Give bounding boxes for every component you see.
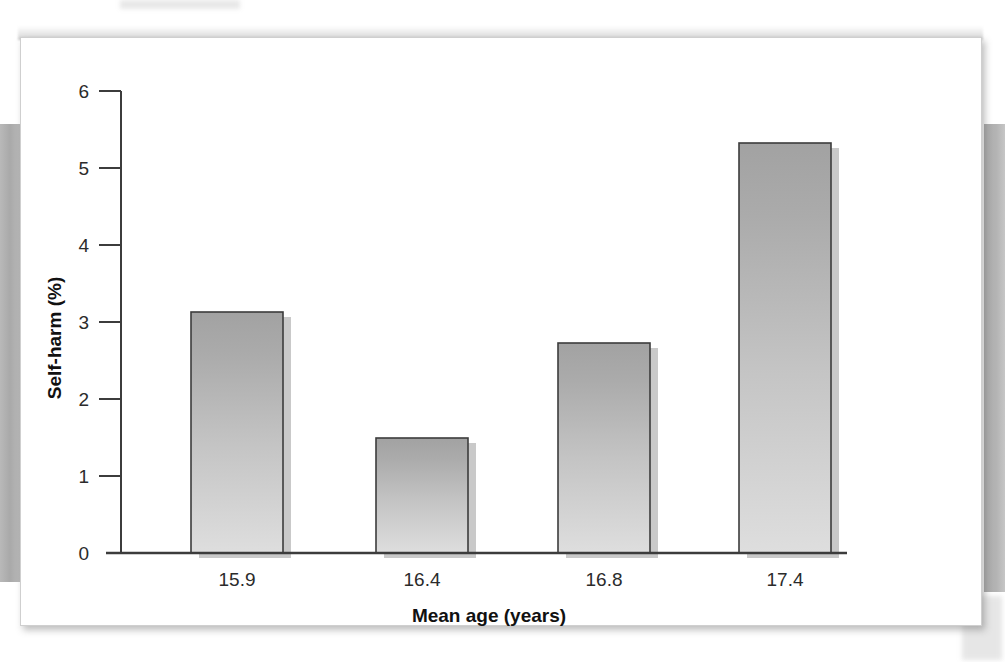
bar-15.9[interactable] xyxy=(191,312,283,553)
y-tick-label-5: 5 xyxy=(78,158,89,179)
x-axis-title: Mean age (years) xyxy=(412,605,566,626)
y-tick-label-1: 1 xyxy=(78,466,89,487)
y-tick-label-6: 6 xyxy=(78,81,89,102)
x-tick-label-17.4: 17.4 xyxy=(767,569,804,590)
y-axis-title: Self-harm (%) xyxy=(44,277,65,399)
chart-canvas: 6 5 4 3 2 1 0 15.9 16.4 16.8 17.4 Self-h… xyxy=(21,38,983,627)
bar-16.8[interactable] xyxy=(558,343,650,553)
y-tick-label-2: 2 xyxy=(78,389,89,410)
y-tick-label-0: 0 xyxy=(78,543,89,564)
bar-chart: 6 5 4 3 2 1 0 15.9 16.4 16.8 17.4 Self-h… xyxy=(21,38,983,627)
page-edge-band-right xyxy=(984,124,1005,592)
page-edge-band-left xyxy=(0,124,22,582)
bar-16.4[interactable] xyxy=(376,438,468,553)
x-tick-label-15.9: 15.9 xyxy=(219,569,256,590)
y-tick-label-3: 3 xyxy=(78,312,89,333)
figure-card: 6 5 4 3 2 1 0 15.9 16.4 16.8 17.4 Self-h… xyxy=(20,37,982,626)
y-tick-marks xyxy=(99,91,121,476)
x-tick-label-16.8: 16.8 xyxy=(586,569,623,590)
page-smudge-top-left xyxy=(120,0,240,9)
x-tick-labels: 15.9 16.4 16.8 17.4 xyxy=(219,569,804,590)
x-tick-label-16.4: 16.4 xyxy=(404,569,441,590)
bar-17.4[interactable] xyxy=(739,143,831,553)
y-tick-label-4: 4 xyxy=(78,235,89,256)
y-tick-labels: 6 5 4 3 2 1 0 xyxy=(78,81,89,564)
